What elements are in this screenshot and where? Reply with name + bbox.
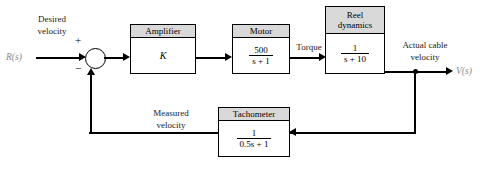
arrow-output — [446, 67, 453, 75]
block-reel-dynamics-body: 1 s + 10 — [326, 34, 384, 73]
wire-feedback-up-to-summer — [90, 74, 92, 133]
wire-summer-to-amplifier — [104, 57, 124, 59]
arrow-feedback-into-summer — [87, 68, 95, 75]
block-amplifier: Amplifier K — [130, 24, 196, 74]
wire-feedback-down — [414, 71, 416, 133]
block-amplifier-body: K — [131, 38, 195, 73]
arrow-amplifier-to-motor — [225, 53, 232, 61]
block-amplifier-gain: K — [160, 50, 167, 61]
block-tachometer-header: Tachometer — [219, 108, 289, 121]
torque-label: Torque — [291, 42, 327, 52]
block-reel-dynamics-denominator: s + 10 — [341, 53, 369, 64]
wire-amplifier-to-motor — [196, 57, 226, 59]
actual-cable-velocity-label-line2: velocity — [388, 52, 462, 62]
block-tachometer-numerator: 1 — [237, 128, 272, 138]
block-motor-denominator: s + 1 — [249, 55, 273, 66]
block-tachometer-body: 1 0.5s + 1 — [219, 121, 289, 156]
block-tachometer-denominator: 0.5s + 1 — [237, 138, 272, 149]
block-reel-dynamics: Reel dynamics 1 s + 10 — [325, 6, 385, 74]
summer-minus-sign: − — [75, 63, 81, 74]
block-tachometer: Tachometer 1 0.5s + 1 — [218, 107, 290, 157]
block-reel-dynamics-numerator: 1 — [341, 43, 369, 53]
summing-junction — [85, 48, 106, 69]
block-tachometer-transfer-function: 1 0.5s + 1 — [237, 128, 272, 149]
actual-cable-velocity-label-line1: Actual cable — [388, 40, 462, 50]
block-motor-numerator: 500 — [249, 45, 273, 55]
block-diagram-canvas: R(s) Desired velocity + − Amplifier K Mo… — [0, 0, 480, 174]
block-reel-dynamics-transfer-function: 1 s + 10 — [341, 43, 369, 64]
wire-motor-to-reel — [290, 57, 320, 59]
block-motor: Motor 500 s + 1 — [232, 24, 290, 74]
block-reel-dynamics-header: Reel dynamics — [326, 7, 384, 34]
block-amplifier-header: Amplifier — [131, 25, 195, 38]
arrow-feedback-to-tachometer — [289, 128, 296, 136]
wire-tachometer-to-summer — [89, 132, 219, 134]
output-signal-label: V(s) — [456, 66, 472, 76]
block-motor-transfer-function: 500 s + 1 — [249, 45, 273, 66]
input-signal-label: R(s) — [6, 52, 22, 62]
block-motor-header: Motor — [233, 25, 289, 38]
wire-input-to-summer — [36, 57, 80, 59]
block-reel-dynamics-header-line1: Reel — [326, 10, 384, 20]
wire-feedback-to-tachometer — [290, 132, 416, 134]
block-reel-dynamics-header-line2: dynamics — [326, 20, 384, 30]
summer-plus-sign: + — [75, 35, 81, 46]
desired-velocity-label-line1: Desired — [19, 14, 85, 24]
measured-velocity-label-line2: velocity — [138, 120, 204, 130]
block-motor-body: 500 s + 1 — [233, 38, 289, 73]
arrow-summer-to-amplifier — [123, 53, 130, 61]
measured-velocity-label-line1: Measured — [138, 108, 204, 118]
